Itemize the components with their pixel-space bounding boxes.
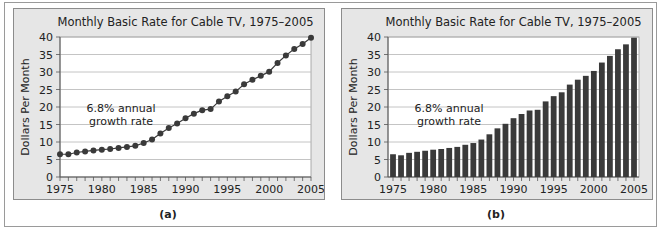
bar — [575, 80, 581, 177]
y-tick-label: 35 — [39, 49, 53, 62]
y-tick-label: 10 — [367, 136, 381, 149]
bar — [495, 128, 501, 177]
y-tick-label: 30 — [39, 66, 53, 79]
data-point — [124, 144, 130, 150]
chart-panel-b: Monthly Basic Rate for Cable TV, 1975–20… — [341, 8, 653, 200]
bar — [390, 154, 396, 177]
figure-frame: Monthly Basic Rate for Cable TV, 1975–20… — [4, 2, 657, 227]
bar — [527, 111, 533, 178]
bar — [559, 92, 565, 177]
data-point — [132, 143, 138, 149]
bar — [398, 155, 404, 177]
data-point — [57, 151, 63, 157]
x-tick-label: 2000 — [255, 183, 283, 196]
y-tick-label: 25 — [39, 84, 53, 97]
bar — [406, 153, 412, 177]
bar — [470, 143, 476, 177]
x-tick-label: 1990 — [172, 183, 200, 196]
bar — [503, 124, 509, 177]
data-point — [99, 147, 105, 153]
data-point — [275, 60, 281, 66]
x-tick-label: 1985 — [130, 183, 158, 196]
data-point — [183, 115, 189, 121]
x-tick-label: 1980 — [88, 183, 116, 196]
y-tick-label: 20 — [367, 101, 381, 114]
data-point — [74, 150, 80, 156]
data-point — [308, 35, 314, 41]
data-point — [241, 81, 247, 87]
bar — [438, 149, 444, 177]
data-point — [149, 137, 155, 143]
bar — [519, 114, 525, 177]
data-point — [90, 147, 96, 153]
data-point — [224, 93, 230, 99]
data-point — [107, 146, 113, 152]
bar — [422, 151, 428, 177]
y-axis-label: Dollars Per Month — [19, 58, 32, 155]
annotation-text: growth rate — [89, 115, 153, 128]
bar — [591, 71, 597, 177]
bar — [623, 44, 629, 177]
bar — [462, 145, 468, 177]
annotation-text: 6.8% annual — [415, 102, 484, 115]
bar — [599, 63, 605, 177]
x-tick-label: 1975 — [379, 183, 407, 196]
data-point — [283, 53, 289, 59]
bar — [615, 49, 621, 177]
caption-a: (a) — [148, 208, 188, 221]
data-point — [266, 69, 272, 75]
y-tick-label: 40 — [367, 31, 381, 44]
bar — [567, 85, 573, 177]
chart-title: Monthly Basic Rate for Cable TV, 1975–20… — [385, 15, 641, 29]
data-point — [174, 120, 180, 126]
data-point — [82, 148, 88, 154]
data-point — [65, 151, 71, 157]
y-tick-label: 5 — [374, 154, 381, 167]
bar — [511, 118, 517, 177]
data-point — [216, 98, 222, 104]
bar — [543, 101, 549, 177]
x-tick-label: 1990 — [500, 183, 528, 196]
y-tick-label: 5 — [46, 154, 53, 167]
bar-chart: Monthly Basic Rate for Cable TV, 1975–20… — [342, 9, 652, 199]
x-tick-label: 2000 — [580, 183, 608, 196]
bar — [631, 38, 637, 177]
bar — [454, 147, 460, 177]
x-tick-label: 1995 — [213, 183, 241, 196]
bar — [487, 134, 493, 177]
data-point — [249, 77, 255, 83]
bar — [414, 152, 420, 177]
x-tick-label: 1975 — [46, 183, 74, 196]
caption-b: (b) — [476, 208, 516, 221]
line-chart: Monthly Basic Rate for Cable TV, 1975–20… — [14, 9, 324, 199]
annotation-text: growth rate — [417, 115, 481, 128]
chart-title: Monthly Basic Rate for Cable TV, 1975–20… — [57, 15, 313, 29]
bar — [446, 148, 452, 177]
x-tick-label: 2005 — [297, 183, 324, 196]
y-axis-label: Dollars Per Month — [347, 58, 360, 155]
x-tick-label: 1985 — [459, 183, 487, 196]
y-tick-label: 10 — [39, 136, 53, 149]
y-tick-label: 15 — [367, 119, 381, 132]
y-tick-label: 25 — [367, 84, 381, 97]
bar — [551, 96, 557, 177]
data-point — [291, 46, 297, 52]
annotation-text: 6.8% annual — [87, 102, 156, 115]
data-point — [208, 106, 214, 112]
y-tick-label: 35 — [367, 49, 381, 62]
x-tick-label: 1995 — [540, 183, 568, 196]
y-tick-label: 20 — [39, 101, 53, 114]
data-point — [199, 107, 205, 113]
data-point — [300, 41, 306, 47]
y-tick-label: 40 — [39, 31, 53, 44]
data-point — [141, 140, 147, 146]
x-tick-label: 1980 — [419, 183, 447, 196]
data-point — [233, 89, 239, 95]
data-point — [191, 111, 197, 117]
bar — [607, 56, 613, 177]
bar — [430, 150, 436, 177]
data-point — [116, 145, 122, 151]
bar — [535, 110, 541, 177]
chart-panel-a: Monthly Basic Rate for Cable TV, 1975–20… — [13, 8, 325, 200]
data-point — [157, 131, 163, 137]
